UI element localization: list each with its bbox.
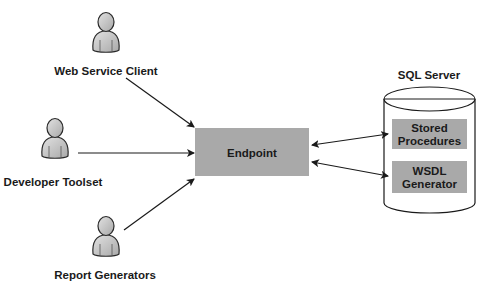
sql-server-cylinder bbox=[384, 87, 475, 213]
wsdl-generator-line1: WSDL bbox=[413, 165, 447, 177]
report-generators-label: Report Generators bbox=[54, 269, 156, 281]
arrow-endpoint-stored-procedures bbox=[312, 134, 388, 145]
arrow-web-client-to-endpoint bbox=[126, 78, 194, 127]
sql-server-title: SQL Server bbox=[398, 69, 461, 81]
arrow-report-to-endpoint bbox=[124, 179, 194, 230]
stored-procedures-line2: Procedures bbox=[398, 135, 461, 147]
arrow-endpoint-wsdl-generator bbox=[312, 162, 388, 176]
stored-procedures-line1: Stored bbox=[411, 122, 447, 134]
stored-procedures-box: Stored Procedures bbox=[392, 119, 467, 149]
web-service-client-actor: Web Service Client bbox=[54, 13, 157, 78]
report-generators-actor: Report Generators bbox=[54, 217, 156, 282]
person-icon bbox=[93, 13, 119, 53]
endpoint-label: Endpoint bbox=[227, 147, 277, 159]
web-service-client-label: Web Service Client bbox=[54, 65, 157, 77]
person-icon bbox=[42, 119, 68, 159]
endpoint-box: Endpoint bbox=[195, 128, 309, 176]
developer-toolset-label: Developer Toolset bbox=[4, 176, 103, 188]
person-icon bbox=[93, 217, 119, 257]
wsdl-generator-line2: Generator bbox=[402, 178, 457, 190]
architecture-diagram: Web Service Client Developer Toolset Rep… bbox=[0, 0, 491, 297]
wsdl-generator-box: WSDL Generator bbox=[392, 161, 467, 193]
